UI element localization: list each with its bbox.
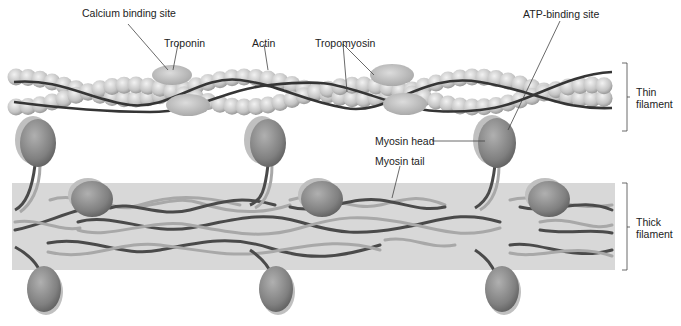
label-troponin: Troponin <box>164 37 205 49</box>
label-thin-line1: Thin <box>636 86 673 98</box>
label-thick-line2: filament <box>636 228 673 240</box>
label-atp-binding-site: ATP-binding site <box>523 8 599 20</box>
label-thin-line2: filament <box>636 98 673 110</box>
label-myosin-tail: Myosin tail <box>375 155 425 167</box>
label-tropomyosin: Tropomyosin <box>315 37 375 49</box>
label-myosin-head: Myosin head <box>375 135 435 147</box>
label-calcium-binding-site: Calcium binding site <box>82 7 176 19</box>
label-thin-filament: Thin filament <box>636 86 673 110</box>
label-thick-line1: Thick <box>636 216 673 228</box>
label-thick-filament: Thick filament <box>636 216 673 240</box>
label-actin: Actin <box>252 37 275 49</box>
